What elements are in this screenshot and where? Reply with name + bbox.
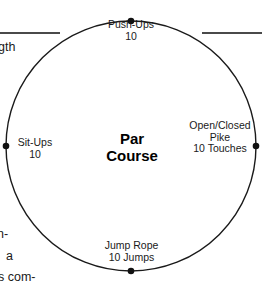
station-reps-sit-ups: 10 <box>4 149 66 161</box>
station-dot-bottom <box>128 268 135 275</box>
body-text-fragment-bottom-3: s com- <box>0 271 36 284</box>
station-name-open-closed: Open/Closed <box>178 120 262 132</box>
station-name-push-ups: Push-Ups <box>86 19 176 31</box>
body-text-fragment-bottom-1: n- <box>0 228 8 241</box>
body-text-fragment-top-left: gth <box>0 41 15 54</box>
station-label-sit-ups: Sit-Ups 10 <box>4 137 66 160</box>
station-label-open-closed-pike: Open/Closed Pike 10 Touches <box>178 120 262 155</box>
station-reps-open-closed-pike: 10 Touches <box>178 143 262 155</box>
station-label-jump-rope: Jump Rope 10 Jumps <box>84 240 179 263</box>
station-label-push-ups: Push-Ups 10 <box>86 19 176 42</box>
par-course-diagram-page: Push-Ups 10 Sit-Ups 10 Open/Closed Pike … <box>0 0 262 290</box>
diagram-center-title: Par Course <box>86 130 178 164</box>
station-reps-push-ups: 10 <box>86 31 176 43</box>
station-reps-jump-rope: 10 Jumps <box>84 252 179 264</box>
station-name-sit-ups: Sit-Ups <box>4 137 66 149</box>
body-text-fragment-bottom-2: a <box>6 250 13 263</box>
center-title-line-2: Course <box>86 147 178 164</box>
center-title-line-1: Par <box>86 130 178 147</box>
station-name-jump-rope: Jump Rope <box>84 240 179 252</box>
